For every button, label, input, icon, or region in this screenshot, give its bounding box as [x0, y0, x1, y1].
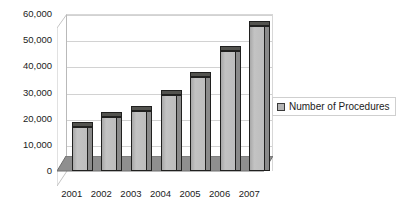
y-axis-labels: 010,00020,00030,00040,00050,00060,000	[0, 0, 57, 206]
legend-swatch-icon	[277, 103, 285, 111]
bar	[249, 26, 265, 171]
bar-front-face	[161, 95, 177, 171]
bar-top-face	[249, 21, 270, 26]
x-axis-tick-label: 2004	[146, 188, 176, 199]
x-axis-tick-label: 2005	[175, 188, 205, 199]
bar-side-face	[88, 127, 93, 171]
bar-front-face	[190, 77, 206, 171]
bar-top-face	[190, 72, 211, 77]
x-axis-tick-label: 2001	[57, 188, 87, 199]
y-axis-tick-label: 20,000	[23, 114, 52, 124]
bar	[220, 51, 236, 171]
bar-front-face	[220, 51, 236, 171]
legend-label: Number of Procedures	[289, 101, 390, 112]
bar-front-face	[131, 111, 147, 171]
bar	[161, 95, 177, 171]
x-axis-tick-label: 2003	[116, 188, 146, 199]
bar	[72, 127, 88, 171]
x-axis-tick-label: 2006	[205, 188, 235, 199]
bar-top-face	[220, 46, 241, 51]
y-axis-tick-label: 0	[47, 166, 52, 176]
bar-top-face	[131, 106, 152, 111]
bar-front-face	[249, 26, 265, 171]
bar	[131, 111, 147, 171]
x-axis-labels: 2001200220032004200520062007	[57, 188, 273, 204]
bar-side-face	[236, 51, 241, 171]
plot-area	[57, 14, 273, 186]
x-axis-tick-label: 2007	[234, 188, 264, 199]
y-axis-tick-label: 50,000	[23, 35, 52, 45]
bar-front-face	[72, 127, 88, 171]
bar-side-face	[117, 117, 122, 171]
bar-top-face	[72, 122, 93, 127]
chart-legend: Number of Procedures	[272, 97, 396, 116]
bar-group	[66, 14, 273, 171]
bar-side-face	[265, 26, 270, 171]
y-axis-tick-label: 30,000	[23, 88, 52, 98]
bar	[190, 77, 206, 171]
bar-top-face	[101, 112, 122, 117]
bar-front-face	[101, 117, 117, 171]
bar-side-face	[147, 111, 152, 171]
y-axis-tick-label: 10,000	[23, 140, 52, 150]
x-axis-tick-label: 2002	[87, 188, 117, 199]
bar-side-face	[177, 95, 182, 171]
bar-side-face	[206, 77, 211, 171]
y-axis-tick-label: 60,000	[23, 9, 52, 19]
y-axis-tick-label: 40,000	[23, 61, 52, 71]
bar-top-face	[161, 90, 182, 95]
bar-chart: 010,00020,00030,00040,00050,00060,000 20…	[0, 0, 414, 206]
bar	[101, 117, 117, 171]
